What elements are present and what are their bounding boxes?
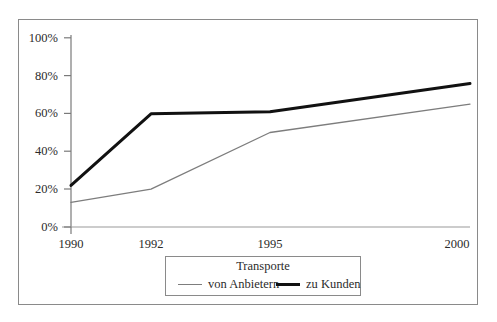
- x-axis-tick-label-1995: 1995: [258, 238, 283, 251]
- y-axis-tick-label-100: 100%: [24, 31, 58, 44]
- x-axis-tick-label-1990: 1990: [59, 238, 84, 251]
- legend-title: Transporte: [166, 259, 360, 274]
- legend-line-swatch-thin-icon: [178, 284, 202, 285]
- y-axis-tick-label-20: 20%: [24, 183, 58, 196]
- legend-item-zu-kunden: zu Kunden: [276, 277, 361, 292]
- y-axis-tick-label-0: 0%: [24, 221, 58, 234]
- chart-figure: 100% 80% 60% 40% 20% 0% 1990 1992 1995 2…: [0, 0, 497, 322]
- legend-line-swatch-thick-icon: [276, 283, 300, 286]
- y-axis-tick-label-80: 80%: [24, 69, 58, 82]
- legend-item-von-anbietern: von Anbietern: [178, 277, 279, 292]
- y-axis-tick-label-60: 60%: [24, 107, 58, 120]
- x-axis-tick-label-2000: 2000: [445, 238, 470, 251]
- series-line-zu-kunden: [71, 83, 470, 185]
- legend-item-label: von Anbietern: [208, 277, 279, 292]
- chart-legend: Transporte von Anbietern zu Kunden: [165, 256, 361, 296]
- y-axis-tick-label-40: 40%: [24, 145, 58, 158]
- series-line-von-anbietern: [71, 104, 470, 202]
- legend-item-label: zu Kunden: [306, 277, 361, 292]
- x-axis-tick-label-1992: 1992: [139, 238, 164, 251]
